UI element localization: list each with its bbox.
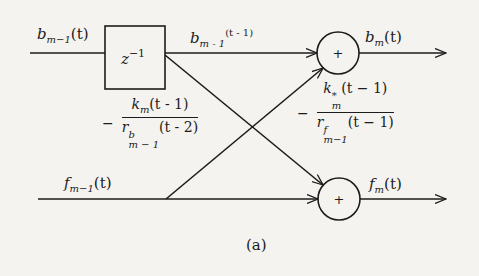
den-sub: m−1 [323, 135, 347, 145]
num-base: k [323, 80, 331, 96]
b-delayed-label: bm - 1(t - 1) [190, 28, 253, 49]
gain-f-to-b-denominator: rfm−1(t − 1) [317, 114, 394, 145]
fraction-bar [317, 112, 394, 113]
figure-caption: (a) [246, 238, 267, 253]
gain-f-to-b-sign: − [297, 105, 309, 121]
f-input-sub: m−1 [70, 183, 94, 194]
f-output-sub: m [375, 184, 384, 195]
den-arg: (t - 2) [159, 119, 198, 135]
gain-b-to-f-sign: − [102, 115, 114, 131]
b-delayed-sup: (t - 1) [225, 27, 253, 38]
bottom-adder-plus-icon: + [334, 192, 345, 207]
num-arg: (t − 1) [341, 80, 387, 96]
num-sub: m [332, 101, 341, 111]
b-delayed-sub: m - 1 [200, 38, 226, 49]
fraction-bar [122, 117, 198, 118]
caption-text: (a) [246, 236, 267, 254]
b-output-sub: m [375, 37, 384, 48]
top-adder-plus-icon: + [333, 46, 344, 61]
f-output-arg: (t) [384, 175, 402, 193]
b-input-sub: m−1 [47, 34, 71, 45]
num-base: k [131, 96, 139, 112]
f-input-label: fm−1(t) [64, 176, 112, 194]
delay-exponent: −1 [129, 47, 145, 60]
b-output-label: bm(t) [365, 30, 402, 48]
num-arg: (t - 1) [149, 96, 188, 112]
gain-b-to-f-denominator: rbm − 1(t - 2) [122, 119, 198, 150]
b-output-arg: (t) [384, 28, 402, 46]
den-arg: (t − 1) [348, 114, 394, 130]
b-input-label: bm−1(t) [37, 27, 89, 45]
gain-f-to-b: − k*m(t − 1) rfm−1(t − 1) [297, 80, 394, 145]
f-input-arg: (t) [94, 174, 112, 192]
gain-f-to-b-numerator: k*m(t − 1) [323, 80, 387, 111]
num-sub: m [140, 104, 149, 115]
b-input-arg: (t) [71, 25, 89, 43]
gain-b-to-f: − km(t - 1) rbm − 1(t - 2) [102, 96, 198, 150]
f-output-label: fm(t) [369, 177, 402, 195]
gain-b-to-f-numerator: km(t - 1) [131, 96, 188, 116]
b-input-base: b [37, 25, 47, 43]
delay-block-label: z−1 [121, 47, 145, 68]
b-delayed-base: b [190, 29, 200, 47]
den-sub: m − 1 [128, 140, 159, 150]
delay-base: z [121, 50, 129, 68]
den-base: r [122, 119, 129, 135]
b-output-base: b [365, 28, 375, 46]
